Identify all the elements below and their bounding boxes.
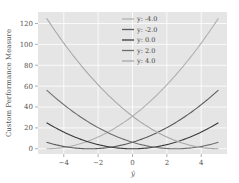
x-tick-label: 2 xyxy=(165,159,169,167)
x-tick-label: 4 xyxy=(199,159,204,167)
x-tick-label: −4 xyxy=(59,159,70,167)
legend-label: y: 4.0 xyxy=(136,57,155,65)
x-axis: −4−2024 xyxy=(59,154,204,167)
y-axis-label: Custom Performance Measure xyxy=(5,29,13,137)
chart: 020406080100120 −4−2024 Custom Performan… xyxy=(0,0,239,183)
y-tick-label: 100 xyxy=(20,41,33,49)
y-tick-label: 20 xyxy=(24,124,33,132)
y-tick-label: 80 xyxy=(24,62,33,70)
legend-label: y: 0.0 xyxy=(136,36,155,44)
y-tick-label: 0 xyxy=(29,145,33,153)
y-axis: 020406080100120 xyxy=(20,20,38,153)
legend-label: y: -4.0 xyxy=(136,15,157,23)
legend-label: y: 2.0 xyxy=(136,47,155,55)
x-axis-label: ŷ xyxy=(130,170,136,178)
y-tick-label: 60 xyxy=(24,83,33,91)
x-tick-label: 0 xyxy=(130,159,134,167)
y-tick-label: 120 xyxy=(20,20,33,28)
x-tick-label: −2 xyxy=(93,159,103,167)
y-tick-label: 40 xyxy=(24,103,33,111)
legend-label: y: -2.0 xyxy=(136,26,157,34)
